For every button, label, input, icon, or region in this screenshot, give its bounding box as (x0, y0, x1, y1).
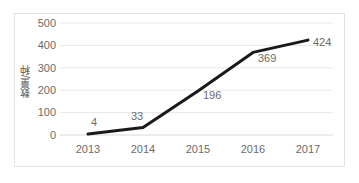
data-label-2013: 4 (91, 116, 97, 128)
y-tick-200: 200 (26, 84, 56, 96)
y-tick-400: 400 (26, 39, 56, 51)
x-tick-2014: 2014 (123, 143, 163, 155)
y-tick-100: 100 (26, 106, 56, 118)
y-tick-300: 300 (26, 62, 56, 74)
y-tick-0: 0 (26, 129, 56, 141)
x-tick-2016: 2016 (233, 143, 273, 155)
data-label-2016: 369 (258, 52, 276, 64)
x-tick-2015: 2015 (178, 143, 218, 155)
data-label-2017: 424 (313, 36, 331, 48)
y-tick-500: 500 (26, 17, 56, 29)
x-tick-2013: 2013 (68, 143, 108, 155)
x-tick-2017: 2017 (288, 143, 328, 155)
data-label-2015: 196 (203, 89, 221, 101)
data-label-2014: 33 (131, 110, 143, 122)
gridlines (60, 23, 333, 113)
